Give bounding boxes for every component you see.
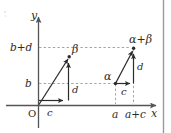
label-component-d-origin: d: [72, 84, 78, 95]
point-alpha-plus-beta: [132, 47, 135, 50]
x-tick-label-first: a: [112, 108, 118, 120]
point-beta: [68, 55, 71, 58]
y-tick-label-lower: b: [25, 77, 32, 89]
x-axis-label: x: [151, 107, 158, 120]
label-component-d-shifted: d: [137, 61, 143, 72]
vector-addition-figure: y x O b+d b a a+c β α α+β c d c d: [0, 0, 171, 133]
label-vector-sum: α+β: [129, 33, 152, 46]
figure-container: y x O b+d b a a+c β α α+β c d c d: [0, 0, 171, 133]
origin-label: O: [28, 108, 36, 119]
y-axis-label: y: [30, 9, 38, 22]
x-tick-label-second: a+c: [125, 108, 146, 120]
y-tick-label-upper: b+d: [10, 41, 33, 53]
label-component-c-origin: c: [47, 107, 53, 118]
label-vector-beta: β: [71, 43, 78, 56]
label-vector-alpha: α: [104, 70, 112, 83]
label-component-c-shifted: c: [121, 86, 127, 97]
